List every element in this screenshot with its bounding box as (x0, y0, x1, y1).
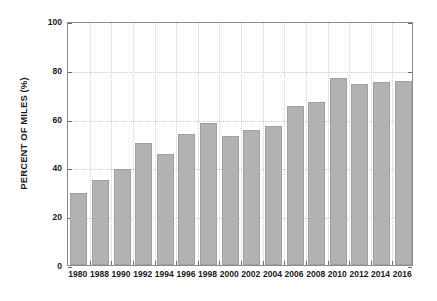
x-axis-tick-label: 2008 (305, 270, 327, 279)
y-axis-tick-labels: 020406080100 (34, 0, 62, 301)
bar (265, 126, 282, 265)
y-axis-tick-label: 60 (36, 116, 62, 125)
bar (395, 81, 412, 265)
bar (351, 84, 368, 265)
plot-area (67, 22, 413, 266)
x-axis-tick-label: 1994 (154, 270, 176, 279)
bar (70, 193, 87, 265)
x-axis-tick-label: 2004 (262, 270, 284, 279)
x-axis-tick-label: 2000 (218, 270, 240, 279)
y-axis-tick-label: 100 (36, 18, 62, 27)
y-axis-tick-label: 80 (36, 67, 62, 76)
bar (114, 169, 131, 265)
x-axis-tick-label: 2014 (370, 270, 392, 279)
y-axis-tick-label: 0 (36, 262, 62, 271)
x-axis-tick-label: 1980 (67, 270, 89, 279)
bar (330, 78, 347, 265)
x-axis-tick-label: 2012 (348, 270, 370, 279)
y-axis-tick-label: 40 (36, 164, 62, 173)
x-axis-tick-label: 2002 (240, 270, 262, 279)
x-axis-tick-label: 1988 (89, 270, 111, 279)
x-axis-tick-label: 2006 (283, 270, 305, 279)
x-axis-tick-label: 2010 (327, 270, 349, 279)
bar-chart-figure: PERCENT OF MILES (%) 020406080100 198019… (0, 0, 437, 301)
y-axis-title-text: PERCENT OF MILES (%) (18, 77, 29, 189)
bar (135, 143, 152, 265)
bar (157, 154, 174, 265)
bar (222, 136, 239, 265)
bars-layer (68, 23, 412, 265)
y-axis-tick-right (408, 267, 412, 268)
x-axis-tick-label: 1992 (132, 270, 154, 279)
bar (308, 102, 325, 265)
y-axis-tick-label: 20 (36, 213, 62, 222)
y-axis-tick (68, 267, 72, 268)
x-axis-tick-labels: 1980198819901992199419961998200020022004… (67, 270, 413, 284)
y-axis-title: PERCENT OF MILES (%) (14, 0, 32, 266)
bar (287, 106, 304, 265)
x-axis-tick-label: 2016 (391, 270, 413, 279)
bar (92, 180, 109, 265)
x-axis-tick-label: 1998 (197, 270, 219, 279)
x-axis-tick-label: 1996 (175, 270, 197, 279)
x-axis-tick-label: 1990 (110, 270, 132, 279)
bar (178, 134, 195, 265)
bar (373, 82, 390, 265)
bar (243, 130, 260, 265)
bar (200, 123, 217, 265)
